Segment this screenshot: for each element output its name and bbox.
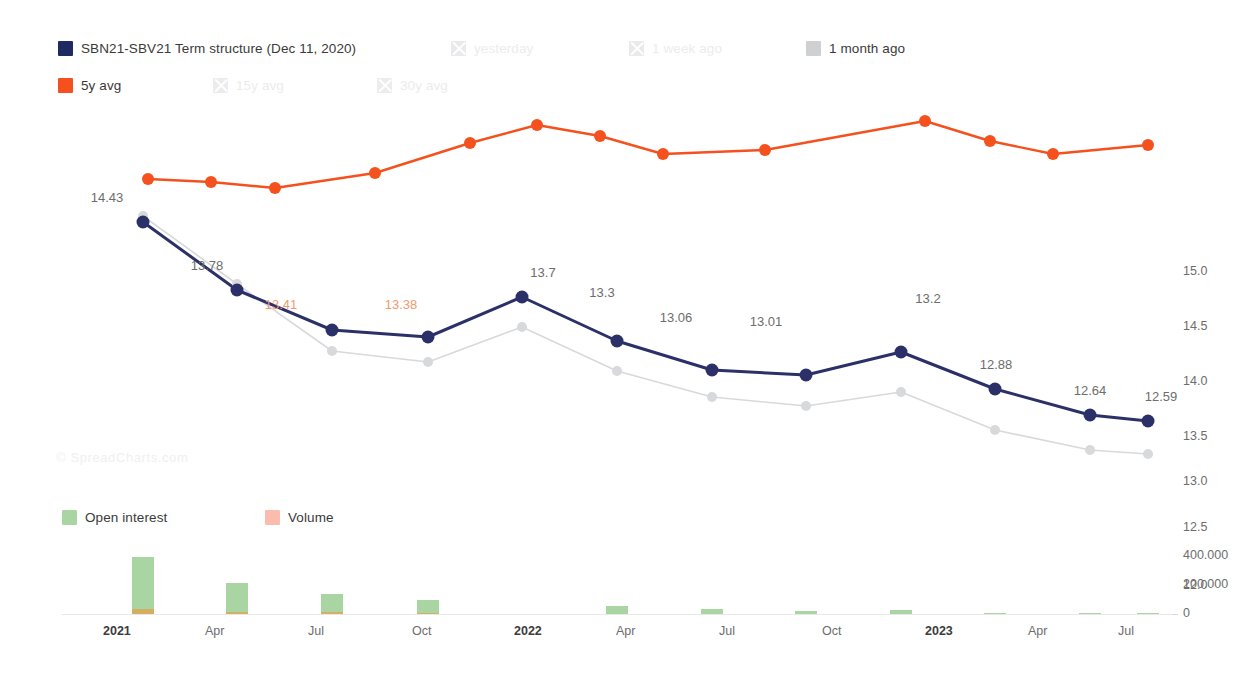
x-axis-tick-label: Apr (616, 624, 635, 638)
volume-bar[interactable] (417, 613, 439, 614)
data-point-marker[interactable] (464, 137, 476, 149)
data-point-marker[interactable] (707, 392, 717, 402)
legend-swatch-icon (806, 41, 821, 56)
data-point-marker[interactable] (327, 346, 337, 356)
data-point-marker[interactable] (326, 324, 339, 337)
legend-row-primary: SBN21-SBV21 Term structure (Dec 11, 2020… (0, 36, 1246, 60)
data-point-marker[interactable] (1084, 409, 1097, 422)
legend-label: SBN21-SBV21 Term structure (Dec 11, 2020… (81, 41, 356, 56)
data-point-marker[interactable] (1142, 415, 1155, 428)
data-point-label: 13.01 (750, 314, 783, 329)
legend-swatch-icon (265, 510, 280, 525)
legend-swatch-icon (58, 78, 73, 93)
data-point-marker[interactable] (422, 331, 435, 344)
data-point-marker[interactable] (231, 284, 244, 297)
data-point-label: 13.2 (915, 291, 940, 306)
data-point-marker[interactable] (1143, 449, 1153, 459)
data-point-marker[interactable] (269, 182, 281, 194)
legend-item-1[interactable]: yesterday (451, 36, 533, 60)
volume-baseline (62, 614, 1174, 615)
data-point-marker[interactable] (657, 148, 669, 160)
open-interest-bar[interactable] (226, 583, 248, 614)
open-interest-bar[interactable] (701, 609, 723, 614)
legend-label: 5y avg (81, 78, 121, 93)
data-point-label: 13.06 (660, 310, 693, 325)
data-point-marker[interactable] (1047, 148, 1059, 160)
volume-legend-item-1[interactable]: Volume (265, 505, 334, 529)
legend-item-3[interactable]: 1 month ago (806, 36, 905, 60)
legend-swatch-icon (213, 78, 228, 93)
data-point-marker[interactable] (612, 366, 622, 376)
watermark: © SpreadCharts.com (56, 450, 188, 465)
volume-bar[interactable] (132, 609, 154, 614)
data-point-marker[interactable] (895, 346, 908, 359)
data-point-marker[interactable] (423, 357, 433, 367)
legend-label: 30y avg (400, 78, 448, 93)
data-point-marker[interactable] (611, 335, 624, 348)
data-point-marker[interactable] (1085, 445, 1095, 455)
data-point-marker[interactable] (1142, 139, 1154, 151)
legend-swatch-icon (58, 41, 73, 56)
data-point-label: 12.64 (1074, 383, 1107, 398)
open-interest-bar[interactable] (890, 610, 912, 614)
legend-item-2[interactable]: 1 week ago (629, 36, 722, 60)
open-interest-bar[interactable] (1137, 613, 1159, 614)
price-lines-svg (0, 100, 1246, 490)
data-point-marker[interactable] (137, 216, 150, 229)
data-point-marker[interactable] (990, 425, 1000, 435)
data-point-marker[interactable] (759, 144, 771, 156)
data-point-marker[interactable] (896, 387, 906, 397)
volume-bar-chart: 400.000200.00002021AprJulOct2022AprJulOc… (0, 540, 1246, 674)
data-point-marker[interactable] (517, 322, 527, 332)
data-point-label: 13.38 (385, 297, 418, 312)
chart-page: SBN21-SBV21 Term structure (Dec 11, 2020… (0, 0, 1246, 674)
legend-swatch-icon (451, 41, 466, 56)
data-point-marker[interactable] (801, 401, 811, 411)
data-point-marker[interactable] (594, 130, 606, 142)
x-axis-tick-label: Apr (205, 624, 224, 638)
data-point-label: 13.3 (589, 285, 614, 300)
data-point-marker[interactable] (142, 173, 154, 185)
legend-item-2[interactable]: 30y avg (377, 73, 448, 97)
legend-label: yesterday (474, 41, 533, 56)
open-interest-bar[interactable] (1079, 613, 1101, 614)
legend-label: 1 month ago (829, 41, 905, 56)
legend-item-0[interactable]: SBN21-SBV21 Term structure (Dec 11, 2020… (58, 36, 356, 60)
data-point-label: 14.43 (91, 190, 124, 205)
legend-label: Volume (288, 510, 334, 525)
data-point-label: 13.7 (530, 265, 555, 280)
x-axis-tick-label: 2022 (514, 624, 542, 638)
data-point-marker[interactable] (205, 176, 217, 188)
data-point-marker[interactable] (369, 167, 381, 179)
data-point-marker[interactable] (706, 364, 719, 377)
legend-item-0[interactable]: 5y avg (58, 73, 121, 97)
legend-item-1[interactable]: 15y avg (213, 73, 284, 97)
x-axis-tick-label: Oct (822, 624, 841, 638)
data-point-marker[interactable] (989, 383, 1002, 396)
data-point-label: 12.59 (1145, 389, 1178, 404)
volume-bar[interactable] (226, 612, 248, 614)
data-point-label: 13.78 (191, 258, 224, 273)
data-point-label: 13.41 (265, 297, 298, 312)
legend-row-averages: 5y avg15y avg30y avg (0, 73, 1246, 97)
x-axis-tick-label: Apr (1028, 624, 1047, 638)
data-point-label: 12.88 (980, 357, 1013, 372)
series-line (148, 121, 1148, 188)
x-axis-tick-label: Jul (719, 624, 735, 638)
open-interest-bar[interactable] (132, 557, 154, 614)
volume-y-tick-label: 400.000 (1183, 548, 1228, 562)
data-point-marker[interactable] (984, 135, 996, 147)
open-interest-bar[interactable] (984, 613, 1006, 614)
open-interest-bar[interactable] (606, 606, 628, 614)
volume-y-tick-label: 0 (1183, 606, 1190, 620)
x-axis-tick-label: Jul (308, 624, 324, 638)
volume-legend-item-0[interactable]: Open interest (62, 505, 167, 529)
x-axis-tick-label: Oct (412, 624, 431, 638)
data-point-marker[interactable] (531, 119, 543, 131)
open-interest-bar[interactable] (321, 594, 343, 614)
data-point-marker[interactable] (516, 291, 529, 304)
data-point-marker[interactable] (919, 115, 931, 127)
open-interest-bar[interactable] (795, 611, 817, 614)
volume-bar[interactable] (321, 612, 343, 614)
data-point-marker[interactable] (800, 369, 813, 382)
